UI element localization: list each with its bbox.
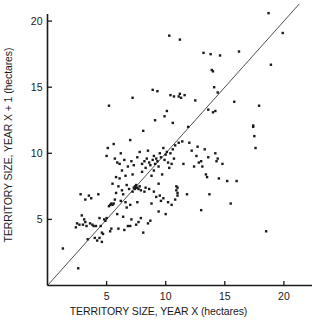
x-axis-title: TERRITORY SIZE, YEAR X (hectares) xyxy=(0,305,317,317)
identity-reference-line xyxy=(48,4,300,286)
x-tick-label: 10 xyxy=(160,290,172,302)
data-point xyxy=(75,226,77,228)
data-point xyxy=(97,193,99,195)
data-point xyxy=(193,165,195,167)
data-point xyxy=(178,142,180,144)
data-point xyxy=(94,237,96,239)
data-point xyxy=(162,147,164,149)
plot-canvas xyxy=(0,0,317,326)
y-axis-title-container: TERRITORY SIZE, YEAR X + 1 (hectares) xyxy=(0,0,16,290)
data-point xyxy=(200,160,202,162)
data-point xyxy=(170,163,172,165)
data-point xyxy=(124,201,126,203)
data-point xyxy=(218,177,220,179)
data-point xyxy=(233,101,235,103)
data-point xyxy=(120,152,122,154)
data-point xyxy=(96,239,98,241)
data-point xyxy=(156,90,158,92)
data-point xyxy=(253,135,255,137)
data-point xyxy=(95,225,97,227)
data-point xyxy=(101,231,103,233)
data-point xyxy=(207,156,209,158)
data-point xyxy=(121,189,123,191)
data-point xyxy=(82,223,84,225)
data-point xyxy=(143,190,145,192)
data-point xyxy=(127,225,129,227)
data-point xyxy=(238,50,240,52)
data-point xyxy=(137,188,139,190)
data-point xyxy=(235,180,237,182)
data-point xyxy=(155,157,157,159)
data-point xyxy=(92,225,94,227)
y-tick-label: 10 xyxy=(26,147,43,159)
data-point xyxy=(267,12,269,14)
data-point xyxy=(115,176,117,178)
y-tick-label: 20 xyxy=(26,15,43,27)
data-point xyxy=(77,267,79,269)
data-point xyxy=(139,185,141,187)
data-point xyxy=(125,206,127,208)
data-point xyxy=(217,91,219,93)
data-point xyxy=(135,184,137,186)
data-point xyxy=(98,237,100,239)
data-point xyxy=(172,148,174,150)
data-point xyxy=(159,194,161,196)
data-point xyxy=(148,161,150,163)
data-point xyxy=(144,186,146,188)
data-point xyxy=(79,193,81,195)
data-point xyxy=(174,144,176,146)
data-point xyxy=(230,202,232,204)
data-point xyxy=(62,247,64,249)
data-point xyxy=(144,167,146,169)
data-point xyxy=(141,163,143,165)
data-point xyxy=(155,196,157,198)
data-point xyxy=(104,220,106,222)
data-point xyxy=(167,201,169,203)
data-point xyxy=(89,222,91,224)
data-point xyxy=(205,173,207,175)
data-point xyxy=(147,222,149,224)
data-point xyxy=(114,198,116,200)
data-point xyxy=(101,241,103,243)
data-point xyxy=(81,214,83,216)
data-point xyxy=(105,217,107,219)
data-point xyxy=(109,230,111,232)
data-point xyxy=(168,167,170,169)
data-point xyxy=(139,151,141,153)
data-point xyxy=(115,192,117,194)
data-point xyxy=(169,94,171,96)
data-point xyxy=(147,149,149,151)
data-point xyxy=(160,156,162,158)
x-tick-label: 5 xyxy=(104,290,110,302)
data-point xyxy=(170,204,172,206)
data-point xyxy=(202,52,204,54)
data-point xyxy=(130,160,132,162)
data-point xyxy=(159,152,161,154)
data-point xyxy=(117,227,119,229)
data-point xyxy=(179,38,181,40)
data-point xyxy=(149,164,151,166)
data-point xyxy=(183,94,185,96)
data-point xyxy=(176,186,178,188)
data-point xyxy=(217,157,219,159)
data-point xyxy=(153,155,155,157)
data-point xyxy=(114,157,116,159)
data-point xyxy=(265,230,267,232)
data-point xyxy=(207,108,209,110)
data-point xyxy=(131,97,133,99)
data-point xyxy=(107,147,109,149)
data-point xyxy=(162,197,164,199)
x-tick-label: 20 xyxy=(278,290,290,302)
data-point xyxy=(174,198,176,200)
data-point xyxy=(166,110,168,112)
data-point xyxy=(133,164,135,166)
data-point xyxy=(153,190,155,192)
data-point xyxy=(117,185,119,187)
data-point xyxy=(137,221,139,223)
data-point xyxy=(150,175,152,177)
data-point xyxy=(125,184,127,186)
data-point xyxy=(270,64,272,66)
data-point xyxy=(212,111,214,113)
data-point xyxy=(152,89,154,91)
data-point xyxy=(105,155,107,157)
